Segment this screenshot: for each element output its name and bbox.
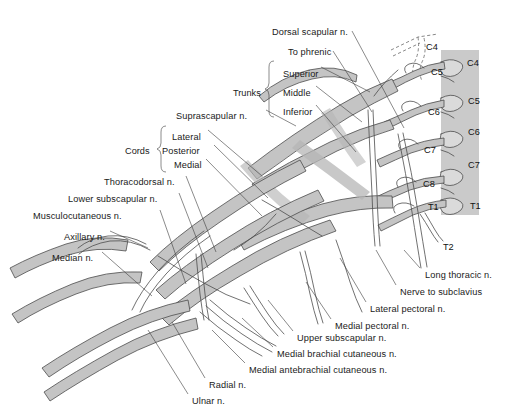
upper-subscapular-n: Upper subscapular n. bbox=[297, 334, 386, 343]
posterior: Posterior bbox=[162, 147, 200, 156]
thoracodorsal-n: Thoracodorsal n. bbox=[104, 178, 175, 187]
dorsal-scapular-n: Dorsal scapular n. bbox=[272, 28, 348, 37]
trunks: Trunks bbox=[233, 89, 261, 98]
median-n: Median n. bbox=[52, 254, 93, 263]
medial: Medial bbox=[174, 161, 202, 170]
root-t2: T2 bbox=[443, 243, 454, 252]
root-c4: C4 bbox=[426, 43, 438, 52]
inferior: Inferior bbox=[283, 108, 312, 117]
musculocutaneous-n: Musculocutaneous n. bbox=[33, 212, 122, 221]
lateral: Lateral bbox=[172, 133, 201, 142]
medial-antebrachial-cutaneous-n: Medial antebrachial cutaneous n. bbox=[249, 366, 387, 375]
root-c6: C6 bbox=[428, 108, 440, 117]
root-c5: C5 bbox=[431, 68, 443, 77]
brachial-plexus-figure: .nv{fill:#c4c4c4;stroke:#4d4d4d;stroke-w… bbox=[0, 0, 518, 412]
middle: Middle bbox=[283, 89, 311, 98]
long-thoracic-n: Long thoracic n. bbox=[425, 271, 492, 280]
to-phrenic: To phrenic bbox=[288, 48, 331, 57]
vertebra-c4: C4 bbox=[467, 59, 479, 68]
medial-brachial-cutaneous-n: Medial brachial cutaneous n. bbox=[277, 350, 397, 359]
cords: Cords bbox=[125, 147, 150, 156]
radial-n: Radial n. bbox=[209, 381, 246, 390]
lateral-pectoral-n: Lateral pectoral n. bbox=[370, 305, 445, 314]
root-c7: C7 bbox=[424, 146, 436, 155]
superior: Superior bbox=[283, 70, 319, 79]
root-t1: T1 bbox=[428, 203, 439, 212]
vertebra-c6: C6 bbox=[468, 128, 480, 137]
suprascapular-n: Suprascapular n. bbox=[176, 112, 247, 121]
medial-pectoral-n: Medial pectoral n. bbox=[335, 322, 409, 331]
root-c8: C8 bbox=[423, 180, 435, 189]
vertebra-c7: C7 bbox=[468, 161, 480, 170]
axillary-n: Axillary n. bbox=[64, 233, 105, 242]
vertebra-c5: C5 bbox=[468, 97, 480, 106]
lower-subscapular-n: Lower subscapular n. bbox=[68, 195, 157, 204]
anatomy-illustration: .nv{fill:#c4c4c4;stroke:#4d4d4d;stroke-w… bbox=[0, 0, 518, 412]
vertebra-t1: T1 bbox=[470, 202, 481, 211]
ulnar-n: Ulnar n. bbox=[192, 397, 225, 406]
nerve-to-subclavius: Nerve to subclavius bbox=[400, 288, 482, 297]
